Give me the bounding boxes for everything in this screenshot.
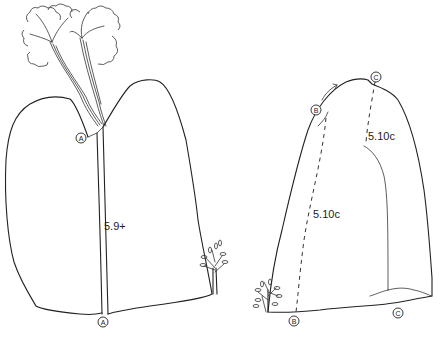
tree-icon [22, 4, 120, 126]
arrow-icon [322, 84, 337, 100]
marker-b-bottom: B [289, 316, 299, 326]
route-a-grade: 5.9+ [104, 220, 126, 232]
route-c-grade: 5.10c [368, 130, 395, 142]
marker-a-top: A [76, 133, 86, 143]
marker-c-top: C [371, 72, 381, 82]
left-boulder [5, 80, 212, 315]
bush-icon [253, 279, 282, 312]
svg-text:A: A [101, 319, 106, 326]
marker-a-bottom: A [98, 317, 108, 327]
svg-text:A: A [79, 135, 84, 142]
svg-text:C: C [395, 310, 400, 317]
shrub-icon [200, 240, 228, 294]
svg-text:B: B [292, 318, 297, 325]
marker-b-top: B [311, 105, 321, 115]
svg-text:C: C [373, 74, 378, 81]
marker-c-bottom: C [393, 308, 403, 318]
route-topo-drawing: 5.9+ 5.10c 5.10c A A B B C C [0, 0, 446, 346]
route-b-grade: 5.10c [313, 208, 340, 220]
svg-text:B: B [314, 107, 319, 114]
right-boulder [268, 79, 432, 313]
